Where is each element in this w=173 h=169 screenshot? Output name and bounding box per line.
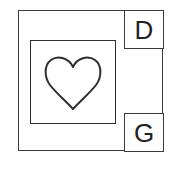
label-box-d: D — [124, 10, 164, 49]
label-box-g: G — [124, 113, 164, 152]
label-g: G — [134, 120, 154, 146]
label-d: D — [135, 17, 154, 43]
heart-icon — [44, 55, 102, 111]
